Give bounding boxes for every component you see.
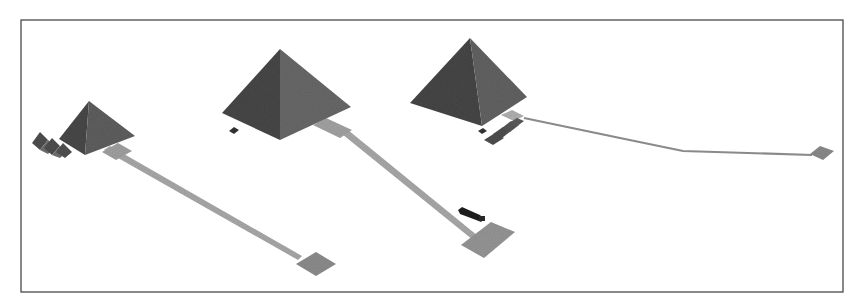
giza-complex-diagram [0, 0, 863, 302]
figure-frame [21, 20, 843, 292]
